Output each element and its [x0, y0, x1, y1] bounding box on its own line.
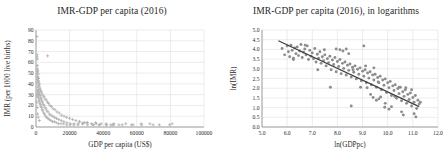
y-tick-label: 30: [28, 92, 34, 98]
data-points: [281, 43, 422, 118]
x-tick-label: 80000: [163, 130, 177, 136]
y-tick-label: 1.0: [253, 105, 260, 111]
x-tick-label: 6.0: [284, 130, 291, 136]
chart-panel-linear: IMR-GDP per capita (2016) 02000040000600…: [0, 0, 224, 164]
x-tick-label: 12.0: [433, 130, 443, 136]
data-points: [35, 35, 173, 126]
x-tick-label: 11.0: [408, 130, 418, 136]
x-tick-label: 20000: [63, 130, 77, 136]
figure-container: IMR-GDP per capita (2016) 02000040000600…: [0, 0, 448, 164]
y-tick-label: 0.5: [253, 114, 260, 120]
x-tick-label: 5.0: [259, 130, 266, 136]
x-tick-label: 9.0: [359, 130, 366, 136]
x-axis-label: ln(GDPpc): [334, 141, 366, 149]
x-tick-label: 60000: [130, 130, 144, 136]
y-tick-label: 2.0: [253, 85, 260, 91]
y-tick-label: 1.5: [253, 95, 260, 101]
y-axis-label: ln(IMR): [230, 66, 238, 91]
y-tick-label: 4.0: [253, 46, 260, 52]
x-tick-label: 40000: [96, 130, 110, 136]
x-axis-label: GDP per capita (US$): [88, 141, 152, 149]
trendline: [278, 41, 419, 107]
y-tick-label: 5.0: [253, 27, 260, 33]
y-tick-label: 80: [28, 38, 34, 44]
x-tick-label: 0: [35, 130, 38, 136]
scatter-plot-linear: 0200004000060000800001000000102030405060…: [0, 0, 224, 164]
y-tick-label: 0.0: [253, 124, 260, 130]
y-tick-label: 40: [28, 81, 34, 87]
y-tick-label: 20: [28, 102, 34, 108]
x-tick-label: 100000: [196, 130, 213, 136]
x-tick-label: 8.0: [334, 130, 341, 136]
scatter-plot-log: 5.06.07.08.09.010.011.012.00.00.51.01.52…: [224, 0, 448, 164]
y-tick-label: 60: [28, 59, 34, 65]
y-tick-label: 2.5: [253, 76, 260, 82]
y-tick-label: 0: [31, 124, 34, 130]
y-tick-label: 70: [28, 49, 34, 55]
y-tick-label: 4.5: [253, 37, 260, 43]
y-tick-label: 50: [28, 70, 34, 76]
x-tick-label: 10.0: [383, 130, 393, 136]
y-tick-label: 3.5: [253, 56, 260, 62]
x-tick-label: 7.0: [309, 130, 316, 136]
chart-panel-log: IMR-GDP per capita (2016), in logarithms…: [224, 0, 448, 164]
y-tick-label: 10: [28, 113, 34, 119]
y-axis-label: IMR (per 1000 live births): [4, 40, 12, 117]
y-tick-label: 90: [28, 27, 34, 33]
y-tick-label: 3.0: [253, 66, 260, 72]
